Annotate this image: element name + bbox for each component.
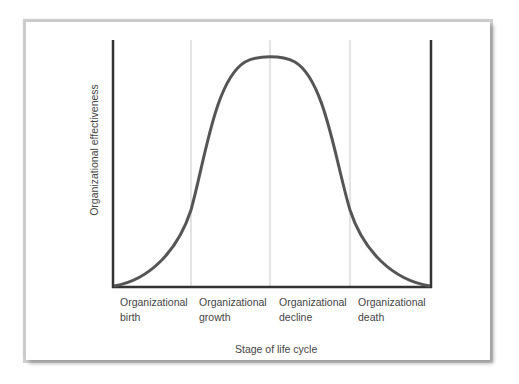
stage-label-line1: Organizational (279, 295, 347, 310)
y-axis-label: Organizational effectiveness (88, 84, 100, 216)
effectiveness-curve (114, 57, 430, 286)
stage-label-line2: decline (279, 310, 347, 325)
stage-label-decline: Organizational decline (279, 295, 347, 325)
stage-label-birth: Organizational birth (120, 295, 188, 325)
stage-label-death: Organizational death (358, 295, 426, 325)
stage-label-line2: growth (199, 310, 267, 325)
stage-label-line1: Organizational (120, 295, 188, 310)
life-cycle-chart (0, 0, 519, 384)
stage-label-line2: death (358, 310, 426, 325)
stage-label-line1: Organizational (358, 295, 426, 310)
stage-label-line2: birth (120, 310, 188, 325)
stage-label-growth: Organizational growth (199, 295, 267, 325)
x-axis-label: Stage of life cycle (235, 343, 317, 355)
stage-label-line1: Organizational (199, 295, 267, 310)
